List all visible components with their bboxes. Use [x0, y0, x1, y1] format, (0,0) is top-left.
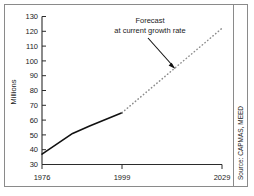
- x-axis-ticks: [42, 165, 222, 170]
- y-tick-label: 40: [30, 145, 38, 154]
- forecast-annotation-line2: at current growth rate: [114, 26, 185, 35]
- figure-container: 30 40 50 60 70 80 90 100 110 120 130 Mil…: [0, 0, 254, 196]
- source-credit: Source: CAPMAS, MEED: [237, 106, 244, 180]
- y-tick-label: 100: [25, 57, 38, 66]
- forecast-annotation-arrow: [148, 38, 176, 69]
- y-tick-label: 50: [30, 131, 38, 140]
- y-tick-label: 110: [26, 42, 38, 51]
- y-axis-title: Millions: [9, 79, 18, 104]
- y-tick-label: 130: [25, 12, 38, 21]
- x-tick-label: 1976: [34, 173, 51, 182]
- y-tick-label: 30: [30, 160, 38, 169]
- y-tick-label: 120: [25, 27, 38, 36]
- y-tick-label: 60: [30, 116, 38, 125]
- series-historical-line: [42, 113, 122, 154]
- y-tick-label: 80: [30, 86, 38, 95]
- y-tick-label: 90: [30, 71, 38, 80]
- population-forecast-chart: 30 40 50 60 70 80 90 100 110 120 130 Mil…: [0, 0, 254, 196]
- y-axis-ticks: [42, 17, 46, 165]
- y-tick-label: 70: [30, 101, 38, 110]
- forecast-annotation-line1: Forecast: [135, 16, 165, 25]
- x-axis-tick-labels: 1976 1999 2029: [34, 173, 231, 182]
- x-tick-label: 1999: [114, 173, 131, 182]
- series-forecast-line: [122, 28, 222, 112]
- y-axis-tick-labels: 30 40 50 60 70 80 90 100 110 120 130: [25, 12, 38, 169]
- x-tick-label: 2029: [214, 173, 231, 182]
